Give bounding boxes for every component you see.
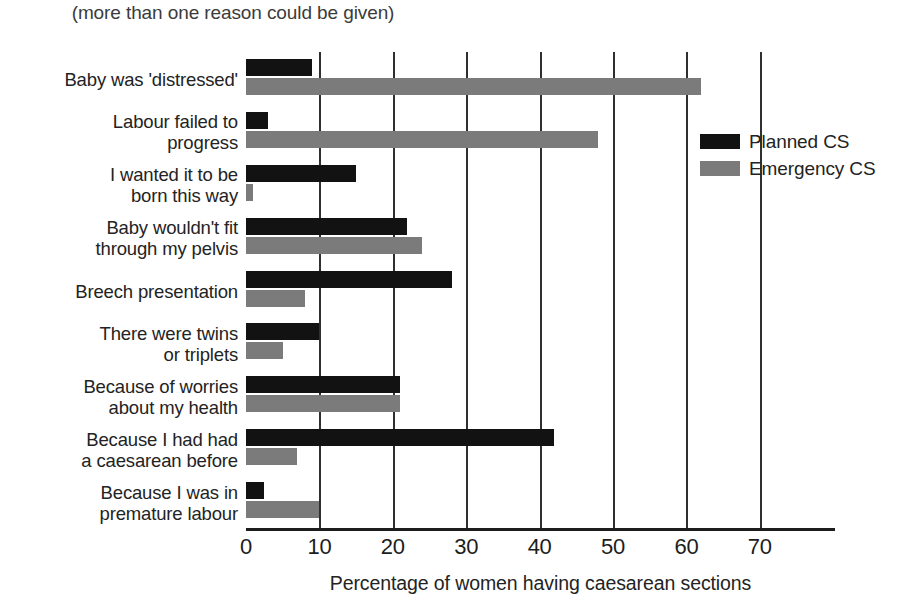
legend-item[interactable]: Planned CS [700, 128, 876, 155]
category-label-line: through my pelvis [8, 238, 238, 259]
bar-planned[interactable] [246, 271, 452, 288]
x-tick-20: 20 [381, 534, 405, 560]
bar-group [246, 369, 835, 422]
bar-emergency[interactable] [246, 184, 253, 201]
category-label-line: progress [8, 132, 238, 153]
bar-emergency[interactable] [246, 342, 283, 359]
x-tick-50: 50 [601, 534, 625, 560]
bar-planned[interactable] [246, 59, 312, 76]
category-label-line: Breech presentation [8, 281, 238, 302]
x-tick-40: 40 [528, 534, 552, 560]
bar-group [246, 316, 835, 369]
category-label: Because of worriesabout my health [8, 376, 246, 418]
y-axis-category-labels: Baby was 'distressed'Labour failed topro… [0, 52, 246, 528]
category-label-line: Because I was in [8, 482, 238, 503]
legend-swatch [700, 161, 740, 176]
category-label-line: about my health [8, 397, 238, 418]
bar-planned[interactable] [246, 165, 356, 182]
bar-group [246, 264, 835, 317]
category-label-line: Because I had had [8, 429, 238, 450]
category-label: Because I had hada caesarean before [8, 429, 246, 471]
legend-swatch [700, 134, 740, 149]
x-tick-60: 60 [674, 534, 698, 560]
category-label: Labour failed toprogress [8, 111, 246, 153]
bar-emergency[interactable] [246, 448, 297, 465]
category-label-line: born this way [8, 185, 238, 206]
bar-group [246, 475, 835, 528]
chart-subtitle: (more than one reason could be given) [0, 2, 466, 24]
category-label-line: Labour failed to [8, 111, 238, 132]
x-tick-30: 30 [454, 534, 478, 560]
bar-planned[interactable] [246, 218, 407, 235]
x-tick-70: 70 [748, 534, 772, 560]
legend-label: Planned CS [749, 131, 849, 153]
category-label: Breech presentation [8, 281, 246, 302]
category-label: I wanted it to beborn this way [8, 164, 246, 206]
category-label: There were twinsor triplets [8, 323, 246, 365]
bar-emergency[interactable] [246, 501, 319, 518]
bar-group [246, 211, 835, 264]
bar-emergency[interactable] [246, 78, 701, 95]
category-label-line: a caesarean before [8, 450, 238, 471]
bar-planned[interactable] [246, 112, 268, 129]
plot-area [246, 52, 835, 528]
bar-emergency[interactable] [246, 237, 422, 254]
x-axis-line [246, 528, 835, 531]
category-label: Baby wouldn't fitthrough my pelvis [8, 217, 246, 259]
category-label-line: or triplets [8, 344, 238, 365]
category-label: Baby was 'distressed' [8, 69, 246, 90]
category-label-line: There were twins [8, 323, 238, 344]
bar-group [246, 422, 835, 475]
category-label: Because I was inpremature labour [8, 482, 246, 524]
bar-planned[interactable] [246, 482, 264, 499]
category-label-line: I wanted it to be [8, 164, 238, 185]
bar-emergency[interactable] [246, 131, 598, 148]
bar-planned[interactable] [246, 376, 400, 393]
x-tick-0: 0 [240, 534, 252, 560]
x-axis-title: Percentage of women having caesarean sec… [246, 572, 835, 595]
category-label-line: premature labour [8, 503, 238, 524]
x-axis-tick-labels: 010203040506070 [0, 534, 918, 564]
category-label-line: Baby wouldn't fit [8, 217, 238, 238]
bar-group [246, 52, 835, 105]
legend-label: Emergency CS [749, 158, 876, 180]
x-tick-10: 10 [307, 534, 331, 560]
bar-planned[interactable] [246, 429, 554, 446]
category-label-line: Baby was 'distressed' [8, 69, 238, 90]
chart-legend: Planned CSEmergency CS [700, 128, 876, 182]
legend-item[interactable]: Emergency CS [700, 155, 876, 182]
bar-planned[interactable] [246, 323, 319, 340]
bar-emergency[interactable] [246, 395, 400, 412]
bar-emergency[interactable] [246, 290, 305, 307]
category-label-line: Because of worries [8, 376, 238, 397]
